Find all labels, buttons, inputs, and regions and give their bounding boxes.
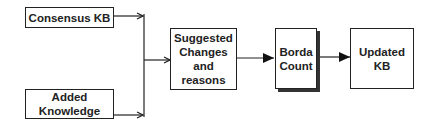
node-label-line: reasons [181,73,225,87]
node-updated-kb: Updated KB [350,28,414,89]
node-label-line: KB [374,59,391,73]
node-suggested-changes: Suggested Changes and reasons [170,28,237,90]
node-label: Consensus KB [29,11,111,25]
node-label-line: Added [52,90,88,104]
node-label-line: Suggested [174,31,233,45]
node-label-line: Count [279,59,312,73]
node-borda-count: Borda Count [275,28,317,89]
node-label-line: and [193,59,213,73]
node-consensus-kb: Consensus KB [25,7,114,28]
node-label-line: Borda [279,45,312,59]
node-label-line: Changes [179,45,228,59]
node-label-line: Updated [359,45,405,59]
node-label-line: Knowledge [39,104,100,118]
node-added-knowledge: Added Knowledge [25,89,114,119]
